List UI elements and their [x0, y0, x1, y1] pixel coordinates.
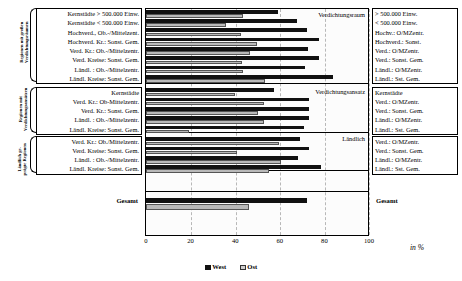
bar-ost: [146, 33, 241, 37]
right-label: Verd.: Sonst. Gem.: [373, 146, 457, 155]
gesamt-label-left: Gesamt: [36, 197, 142, 204]
left-label: Kernstädte: [37, 88, 141, 97]
right-label: Verd.: Sonst. Gem.: [373, 55, 457, 64]
right-label: Ländl.: Sst. Gem.: [373, 125, 457, 134]
legend-swatch-west: [205, 265, 211, 270]
left-label: Ländl. Kreise: Sonst. Gem.: [37, 125, 141, 134]
legend-swatch-ost: [240, 265, 246, 270]
right-label: Verd.: O/MZentr.: [373, 97, 457, 106]
group-caption-1: Regionen mit großen Verdichtungsräumen: [19, 6, 30, 78]
right-label-block-3: Verd.: O/MZentr. Verd.: Sonst. Gem. Länd…: [372, 136, 458, 175]
gridline-100: [369, 9, 370, 235]
right-label: Kernstädte: [373, 88, 457, 97]
left-label: Verd. Kr.: Ob./Mittelzentr.: [37, 137, 141, 146]
bar-ost: [146, 79, 265, 83]
left-label: Hochverd. Kr.: Sonst. Gem.: [37, 37, 141, 46]
bar-ost: [146, 169, 269, 173]
region-tag-laendlich: Ländlich: [342, 135, 365, 142]
gridline-80: [325, 9, 326, 235]
left-label: Kernstädte < 500.000 Einw.: [37, 18, 141, 27]
left-label-block-3: Verd. Kr.: Ob./Mittelzentr. Verd. Kreise…: [36, 136, 142, 175]
bar-ost: [146, 111, 258, 115]
left-label-block-2: Kernstädte Verd. Kr.: Ob-Mittelzentr. Ve…: [36, 87, 142, 135]
left-label: Verd. Kr.: Ob-Mittelzentr.: [37, 97, 141, 106]
bar-ost: [146, 142, 279, 146]
left-label: Verd. Kreise: Sonst. Gem.: [37, 55, 141, 64]
right-label: Ländl.: O/MZentr.: [373, 115, 457, 124]
bar-ost: [146, 120, 264, 124]
chart-legend: West Ost: [0, 263, 462, 270]
right-label: Ländl.: Sst. Gem.: [373, 74, 457, 83]
right-label: Hochverd.: Sonst.: [373, 37, 457, 46]
left-label: Kernstädte > 500.000 Einw.: [37, 9, 141, 18]
left-label: Ländl. Kreise: Sonst. Gem.: [37, 164, 141, 173]
right-label: Verd.: O/MZentr.: [373, 137, 457, 146]
axis-tick-100: 100: [357, 237, 381, 244]
region-tag-verdichtungsraum: Verdichtungsraum: [318, 11, 365, 18]
bar-ost: [146, 160, 281, 164]
right-label: > 500.000 Einw.: [373, 9, 457, 18]
left-label: Verd. Kr.: Ob.-/Mittelzentr.: [37, 46, 141, 55]
axis-tick-60: 60: [268, 237, 292, 244]
bar-ost: [146, 93, 235, 97]
axis-tick-80: 80: [312, 237, 336, 244]
legend-label-west: West: [212, 263, 226, 270]
bar-ost: [146, 14, 243, 18]
right-label: Verd.: Sonst. Gem.: [373, 106, 457, 115]
legend-label-ost: Ost: [247, 263, 257, 270]
gesamt-label-right: Gesamt: [372, 197, 458, 204]
group-caption-3: Ländlich ge- prägte Regionen: [17, 131, 28, 187]
right-label-block-1: > 500.000 Einw. < 500.000 Einw. Hochv.: …: [372, 8, 458, 84]
left-label: Verd. Kr.: Sonst. Gem.: [37, 106, 141, 115]
left-label: Ländl. Kreise: Sonst. Gem.: [37, 74, 141, 83]
bar-ost: [146, 23, 226, 27]
bar-ost: [146, 151, 237, 155]
block-separator-1: [146, 83, 368, 84]
axis-tick-0: 0: [134, 237, 158, 244]
bar-west-gesamt: [146, 198, 307, 203]
bar-ost: [146, 102, 264, 106]
bar-ost-gesamt: [146, 204, 249, 209]
bar-ost: [146, 130, 189, 134]
right-label: Ländl.: Sst. Gem.: [373, 164, 457, 173]
right-label: Ländl.: O/MZentr.: [373, 65, 457, 74]
left-label: Ländl. : Ob.-/Mittelzentr.: [37, 155, 141, 164]
axis-unit-label: in %: [410, 243, 424, 252]
legend-item-ost: Ost: [240, 263, 257, 270]
plot-area: Verdichtungsraum Verdichtungsansatz Länd…: [145, 8, 369, 236]
legend-item-west: West: [205, 263, 226, 270]
bar-ost: [146, 42, 257, 46]
right-label: Ländl.: O/MZentr.: [373, 155, 457, 164]
right-label-block-2: Kernstädte Verd.: O/MZentr. Verd.: Sonst…: [372, 87, 458, 135]
bar-ost: [146, 51, 250, 55]
left-label-block-1: Kernstädte > 500.000 Einw. Kernstädte < …: [36, 8, 142, 84]
block-separator-4: [146, 191, 368, 192]
axis-tick-40: 40: [223, 237, 247, 244]
left-label: Ländl. : Ob.-/Mittelzentr.: [37, 65, 141, 74]
axis-tick-20: 20: [179, 237, 203, 244]
region-tag-verdichtungsansatz: Verdichtungsansatz: [315, 88, 365, 95]
right-label: < 500.000 Einw.: [373, 18, 457, 27]
left-label: Ländl. : Ob.-/Mittelzentr.: [37, 115, 141, 124]
right-label: Hochv.: O/MZentr.: [373, 28, 457, 37]
bar-ost: [146, 70, 243, 74]
bar-ost: [146, 61, 242, 65]
right-label: Verd.: O/MZentr.: [373, 46, 457, 55]
left-label: Hochverd., Ob.-/Mittelzent.: [37, 28, 141, 37]
left-label: Verd. Kreise: Sonst. Gem.: [37, 146, 141, 155]
chart-canvas: Regionen mit großen Verdichtungsräumen R…: [0, 0, 462, 281]
